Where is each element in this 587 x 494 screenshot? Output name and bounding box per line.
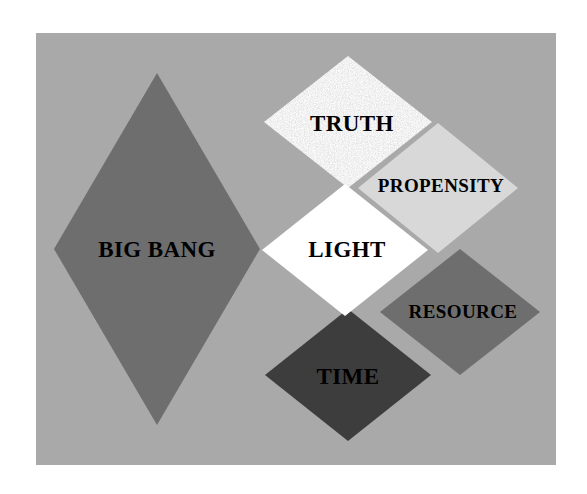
diagram-canvas: BIG BANG TRUTH PROPENSITY LIGHT RESOURCE… bbox=[0, 0, 587, 494]
shape-layer bbox=[0, 0, 587, 494]
shape-big-bang[interactable] bbox=[54, 73, 260, 425]
